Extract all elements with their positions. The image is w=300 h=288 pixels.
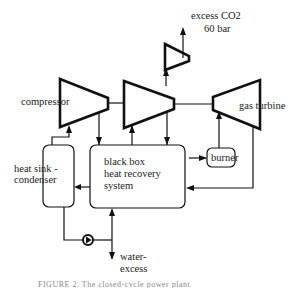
black-box-label-1: black box [104,156,146,167]
process-diagram: compressor gas turbine excess CO2 60 bar… [0,0,300,288]
gas-turbine-label: gas turbine [239,100,286,111]
arrow-up-icon [180,27,186,35]
arrow-down-icon [164,137,170,145]
compressor-label: compressor [21,96,70,107]
condenser-label: condenser [14,174,57,185]
arrow-right-icon [199,155,207,161]
flow-condenser-to-pump [64,207,83,240]
excess-co2-label: excess CO2 [191,10,241,21]
arrow-down-icon [109,252,115,260]
figure-caption: FIGURE 2. The closed-cycle power plant [38,280,190,288]
arrow-left-icon [74,184,81,190]
excess-co2-pressure-label: 60 bar [204,23,231,34]
burner-label: burner [211,152,239,163]
arrow-up-icon [66,125,72,133]
arrow-up-icon [109,208,115,216]
flow-condenser-to-compressor [52,127,69,145]
black-box-label-3: system [104,180,133,191]
water-label: water- [120,251,147,262]
co2-compressor-shape [165,44,189,70]
arrow-down-icon [96,137,102,145]
heat-sink-label: heat sink - [14,163,58,174]
excess-label: excess [120,263,147,274]
black-box-label-2: heat recovery [104,168,162,179]
arrow-left-icon [186,185,194,191]
